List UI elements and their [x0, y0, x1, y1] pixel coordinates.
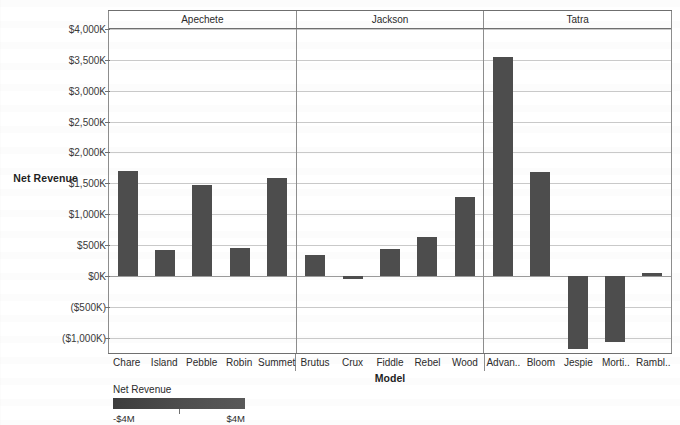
y-axis-tick-label: $3,500K: [44, 54, 106, 65]
plot-area: ApecheteJacksonTatra: [108, 10, 672, 353]
y-axis-tick-label: $500K: [44, 240, 106, 251]
x-axis-tick-label: Island: [145, 354, 182, 371]
legend-title: Net Revenue: [113, 384, 245, 395]
panels: [109, 29, 671, 353]
bar-fiddle[interactable]: [380, 249, 400, 276]
y-axis-tick-label: ($1,000K): [44, 332, 106, 343]
bar-slot: [380, 29, 400, 353]
bar-slot: [568, 29, 588, 353]
bar-slot: [605, 29, 625, 353]
bar-advan[interactable]: [493, 57, 513, 276]
bar-chart: Net Revenue $4,000K$3,500K$3,000K$2,500K…: [0, 0, 680, 425]
bar-slot: [642, 29, 662, 353]
bar-slot: [192, 29, 212, 353]
bar-slot: [343, 29, 363, 353]
x-axis-tick-label: Pebble: [183, 354, 220, 371]
y-axis-tick-label: $2,500K: [44, 116, 106, 127]
panel-jackson: [297, 29, 485, 353]
bar-bloom[interactable]: [530, 172, 550, 276]
bar-slot: [417, 29, 437, 353]
bar-slot: [455, 29, 475, 353]
panel-tatra: [484, 29, 671, 353]
bar-jespie[interactable]: [568, 276, 588, 349]
y-axis-tick-label: $0K: [44, 270, 106, 281]
legend-max-label: $4M: [227, 413, 245, 424]
x-axis-tick-label: Jespie: [560, 354, 597, 371]
panel-apechete: [109, 29, 297, 353]
bar-wood[interactable]: [455, 197, 475, 276]
bar-rebel[interactable]: [417, 237, 437, 276]
bar-chare[interactable]: [118, 171, 138, 276]
bar-slot: [155, 29, 175, 353]
x-label-group: Advan..BloomJespieMorti..Rambl..: [485, 354, 672, 371]
legend-gradient-bar: [113, 398, 245, 409]
x-axis-tick-label: Summet: [258, 354, 295, 371]
bar-crux[interactable]: [343, 276, 363, 279]
bar-robin[interactable]: [230, 248, 250, 276]
bar-island[interactable]: [155, 250, 175, 276]
bar-slot: [530, 29, 550, 353]
x-axis-tick-label: Rambl..: [635, 354, 672, 371]
group-header-row: ApecheteJacksonTatra: [109, 10, 671, 29]
group-header-apechete: Apechete: [109, 10, 297, 28]
bar-brutus[interactable]: [305, 255, 325, 275]
x-axis-tick-label: Crux: [334, 354, 371, 371]
y-axis-tick-label: $3,000K: [44, 85, 106, 96]
x-axis-tick-label: Advan..: [485, 354, 522, 371]
x-label-group: BrutusCruxFiddleRebelWood: [296, 354, 484, 371]
legend-scale: -$4M $4M: [113, 413, 245, 425]
bar-morti[interactable]: [605, 276, 625, 343]
y-axis-tick-label: $1,500K: [44, 178, 106, 189]
bar-group: [297, 29, 484, 353]
y-axis-tick-label: $1,000K: [44, 209, 106, 220]
bar-rambl[interactable]: [642, 273, 662, 276]
x-axis-tick-label: Fiddle: [371, 354, 408, 371]
y-axis-tick-label: $2,000K: [44, 147, 106, 158]
group-header-jackson: Jackson: [297, 10, 485, 28]
x-axis-tick-label: Chare: [108, 354, 145, 371]
group-header-tatra: Tatra: [484, 10, 671, 28]
y-axis-tick-label: $4,000K: [44, 24, 106, 35]
y-axis-tick-labels: $4,000K$3,500K$3,000K$2,500K$2,000K$1,50…: [20, 0, 106, 425]
x-axis-tick-labels: ChareIslandPebbleRobinSummetBrutusCruxFi…: [108, 354, 672, 371]
bar-summet[interactable]: [267, 178, 287, 276]
x-axis-tick-label: Brutus: [296, 354, 333, 371]
x-axis-tick-label: Rebel: [409, 354, 446, 371]
x-axis-tick-label: Morti..: [597, 354, 634, 371]
bar-slot: [230, 29, 250, 353]
bar-slot: [118, 29, 138, 353]
bar-slot: [305, 29, 325, 353]
bar-group: [484, 29, 671, 353]
plot-top-rule: [108, 10, 672, 11]
bar-pebble[interactable]: [192, 185, 212, 276]
bar-slot: [493, 29, 513, 353]
y-axis-tick-label: ($500K): [44, 301, 106, 312]
x-axis-title: Model: [108, 372, 672, 384]
bar-group: [109, 29, 296, 353]
x-label-group: ChareIslandPebbleRobinSummet: [108, 354, 296, 371]
x-axis-tick-label: Wood: [446, 354, 483, 371]
x-axis-tick-label: Robin: [220, 354, 257, 371]
legend: Net Revenue -$4M $4M: [113, 384, 245, 425]
legend-min-label: -$4M: [113, 413, 135, 424]
x-axis-tick-label: Bloom: [522, 354, 559, 371]
bar-slot: [267, 29, 287, 353]
